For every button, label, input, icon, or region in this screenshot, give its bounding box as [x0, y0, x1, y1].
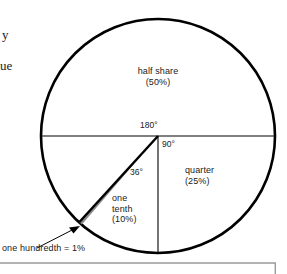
pie-chart-svg: [0, 0, 287, 274]
body-text-fragment-1: y: [2, 27, 9, 43]
one-tenth-percent: (10%): [112, 214, 137, 224]
pie-chart-figure: half share (50%) quarter (25%) one tenth…: [0, 0, 287, 274]
one-tenth-name-line1: one: [112, 193, 127, 203]
angle-label-36: 36°: [130, 167, 143, 177]
quarter-name: quarter: [185, 165, 214, 175]
callout-arrow-head: [69, 226, 80, 234]
body-text-fragment-2: ue: [0, 58, 12, 74]
half-share-percent: (50%): [146, 77, 171, 87]
one-tenth-name-line2: tenth: [112, 204, 133, 214]
half-share-label: half share (50%): [104, 66, 212, 87]
quarter-percent: (25%): [185, 176, 210, 186]
half-share-name: half share: [138, 66, 179, 76]
angle-label-90: 90°: [162, 139, 175, 149]
one-hundredth-callout-label: one hundredth = 1%: [2, 243, 85, 254]
quarter-label: quarter (25%): [185, 165, 255, 186]
one-tenth-label: one tenth (10%): [112, 193, 162, 225]
angle-label-180: 180°: [140, 120, 158, 130]
